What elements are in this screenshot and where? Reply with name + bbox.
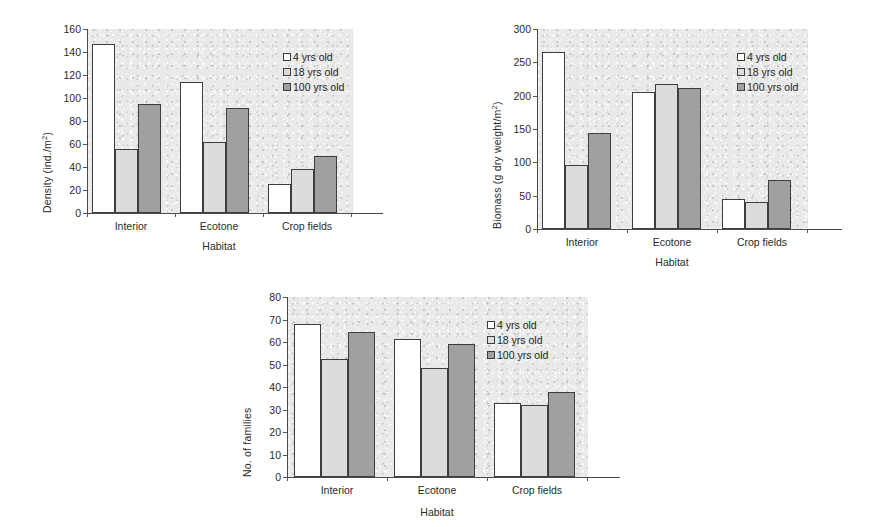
y-tick-label: 30 [269, 404, 281, 415]
bar-crop-fields-4-yrs-old [494, 403, 521, 477]
bar-interior-18-yrs-old [321, 359, 348, 477]
y-tick-label: 150 [513, 124, 531, 135]
legend-item-100-yrs-old: 100 yrs old [283, 79, 344, 94]
density-y-tick-labels: 020406080100120140160 [53, 29, 81, 213]
y-tick-label: 250 [513, 57, 531, 68]
y-tick-mark [83, 75, 87, 76]
y-tick-label: 0 [275, 472, 281, 483]
y-tick-mark [83, 98, 87, 99]
legend-item-18-yrs-old: 18 yrs old [487, 332, 548, 347]
y-tick-mark [533, 29, 537, 30]
legend-item-100-yrs-old: 100 yrs old [737, 79, 798, 94]
bar-crop-fields-100-yrs-old [548, 392, 575, 478]
bar-crop-fields-100-yrs-old [768, 180, 791, 229]
x-tick-mark [537, 229, 538, 233]
y-tick-label: 80 [69, 116, 81, 127]
y-tick-label: 140 [63, 47, 81, 58]
y-tick-label: 50 [269, 359, 281, 370]
y-tick-label: 0 [525, 224, 531, 235]
y-tick-label: 100 [513, 157, 531, 168]
bar-ecotone-4-yrs-old [180, 82, 203, 213]
y-tick-mark [83, 167, 87, 168]
legend-swatch-icon [487, 321, 495, 329]
figure-page: { "figure": { "series_names": ["4 yrs ol… [0, 0, 893, 527]
y-tick-label: 10 [269, 449, 281, 460]
x-category-label: Interior [287, 484, 387, 496]
bar-crop-fields-18-yrs-old [745, 202, 768, 229]
bar-interior-4-yrs-old [92, 44, 115, 213]
bar-ecotone-18-yrs-old [655, 84, 678, 229]
legend-label: 4 yrs old [747, 51, 787, 63]
x-tick-mark [263, 213, 264, 217]
bar-crop-fields-100-yrs-old [314, 156, 337, 214]
y-tick-label: 120 [63, 70, 81, 81]
y-tick-label: 300 [513, 24, 531, 35]
y-tick-label: 20 [69, 185, 81, 196]
bar-crop-fields-18-yrs-old [521, 405, 548, 477]
y-tick-label: 20 [269, 427, 281, 438]
y-tick-label: 0 [75, 208, 81, 219]
y-tick-mark [533, 129, 537, 130]
x-tick-mark [717, 229, 718, 233]
density-x-axis-title: Habitat [175, 240, 263, 252]
density-y-axis-title: Density (ind./m2) [41, 132, 53, 213]
y-tick-mark [533, 62, 537, 63]
bar-ecotone-100-yrs-old [226, 108, 249, 213]
legend-swatch-icon [283, 83, 291, 91]
x-tick-mark [351, 213, 352, 217]
y-tick-mark [283, 297, 287, 298]
x-category-label: Crop fields [717, 236, 807, 248]
legend-label: 100 yrs old [293, 81, 344, 93]
x-category-label: Interior [87, 220, 175, 232]
y-tick-label: 60 [69, 139, 81, 150]
x-tick-mark [807, 229, 808, 233]
x-tick-mark [87, 213, 88, 217]
x-tick-mark [175, 213, 176, 217]
legend-label: 4 yrs old [497, 319, 537, 331]
bar-interior-4-yrs-old [542, 52, 565, 229]
density-x-axis-line [87, 213, 383, 214]
x-tick-mark [387, 477, 388, 481]
bar-crop-fields-18-yrs-old [291, 169, 314, 213]
x-category-label: Ecotone [387, 484, 487, 496]
y-tick-mark [283, 342, 287, 343]
y-tick-mark [83, 190, 87, 191]
y-tick-mark [283, 410, 287, 411]
legend-label: 18 yrs old [497, 334, 543, 346]
bar-ecotone-18-yrs-old [421, 368, 448, 477]
legend-item-100-yrs-old: 100 yrs old [487, 347, 548, 362]
families-x-axis-line [287, 477, 620, 478]
legend-item-18-yrs-old: 18 yrs old [283, 64, 344, 79]
legend-swatch-icon [487, 336, 495, 344]
y-tick-mark [533, 196, 537, 197]
families-y-tick-labels: 01020304050607080 [253, 297, 281, 477]
y-tick-mark [283, 432, 287, 433]
density-chart: Density (ind./m2) 020406080100120140160 … [20, 14, 440, 254]
x-tick-mark [287, 477, 288, 481]
biomass-chart: Biomass (g dry weight/m2) 05010015020025… [468, 14, 888, 264]
biomass-legend: 4 yrs old18 yrs old100 yrs old [737, 49, 798, 94]
y-tick-mark [283, 320, 287, 321]
y-tick-mark [283, 387, 287, 388]
x-category-label: Crop fields [487, 484, 587, 496]
y-tick-label: 60 [269, 337, 281, 348]
legend-item-18-yrs-old: 18 yrs old [737, 64, 798, 79]
biomass-y-tick-labels: 050100150200250300 [503, 29, 531, 229]
legend-label: 100 yrs old [497, 349, 548, 361]
legend-swatch-icon [283, 53, 291, 61]
y-tick-mark [83, 29, 87, 30]
legend-label: 18 yrs old [293, 66, 339, 78]
families-y-axis-title: No. of families [241, 407, 253, 477]
bar-ecotone-4-yrs-old [394, 339, 421, 477]
bar-interior-100-yrs-old [588, 133, 611, 229]
legend-swatch-icon [283, 68, 291, 76]
y-tick-mark [283, 365, 287, 366]
y-tick-mark [533, 162, 537, 163]
y-tick-label: 70 [269, 314, 281, 325]
legend-item-4-yrs-old: 4 yrs old [487, 317, 548, 332]
x-category-label: Ecotone [627, 236, 717, 248]
legend-item-4-yrs-old: 4 yrs old [283, 49, 344, 64]
bar-interior-4-yrs-old [294, 324, 321, 477]
biomass-y-axis-title: Biomass (g dry weight/m2) [491, 101, 503, 229]
biomass-x-axis-title: Habitat [627, 256, 717, 268]
